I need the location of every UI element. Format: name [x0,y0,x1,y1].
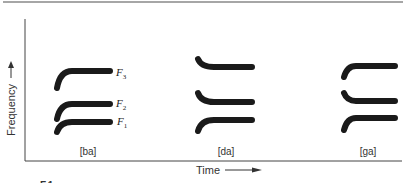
arrow-right-icon [225,168,262,173]
y-axis-label-group: Frequency [5,61,17,136]
formant-da-f1 [198,120,252,131]
x-axis-label: Time [196,164,220,176]
formant-da-f2 [198,93,252,102]
formant-label-f2: F2 [115,97,127,112]
formant-tracks [57,59,395,132]
syllable-label-ga: [ga] [360,146,377,157]
formant-ba-f2 [57,104,110,119]
y-axis-label: Frequency [5,84,17,136]
formant-da-f3 [198,59,252,67]
syllable-label-ba: [ba] [80,146,97,157]
formant-diagram: Frequency Time F.1 [ba] [da] [ga] F3 F2 … [0,0,409,183]
formant-label-f1: F1 [116,115,128,130]
syllable-label-da: [da] [218,146,235,157]
formant-label-f3: F3 [115,66,127,81]
arrow-up-icon [8,61,14,78]
formant-ba-f1 [57,122,110,132]
caption-fragment: F.1 [40,180,54,183]
formant-ga-f2 [344,93,395,101]
formant-ga-f3 [344,66,395,77]
formant-ga-f1 [344,118,395,130]
formant-ba-f3 [57,71,110,88]
